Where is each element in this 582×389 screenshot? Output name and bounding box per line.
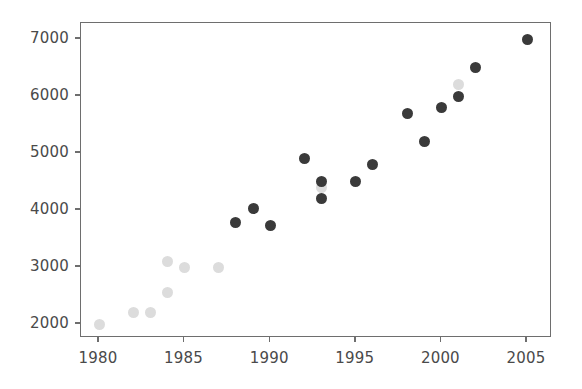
plot-area bbox=[80, 22, 551, 337]
x-axis-tick-label: 2005 bbox=[491, 349, 561, 367]
scatter-chart-figure: 1980198519901995200020052000300040005000… bbox=[0, 0, 582, 389]
data-point bbox=[179, 262, 190, 273]
data-point bbox=[419, 136, 430, 147]
x-axis-tick-label: 1995 bbox=[320, 349, 390, 367]
data-point bbox=[128, 307, 139, 318]
data-point bbox=[230, 217, 241, 228]
x-axis-tick bbox=[183, 337, 184, 342]
y-axis-tick-label: 3000 bbox=[9, 257, 69, 275]
data-point bbox=[316, 193, 327, 204]
y-axis-tick-label: 7000 bbox=[9, 29, 69, 47]
data-point bbox=[94, 319, 105, 330]
data-point bbox=[350, 176, 361, 187]
data-point bbox=[248, 203, 259, 214]
y-axis-tick bbox=[75, 208, 80, 209]
data-point bbox=[299, 153, 310, 164]
data-point bbox=[436, 102, 447, 113]
data-point bbox=[402, 108, 413, 119]
data-point bbox=[162, 256, 173, 267]
data-point bbox=[265, 220, 276, 231]
x-axis-tick bbox=[269, 337, 270, 342]
data-point bbox=[145, 307, 156, 318]
y-axis-tick bbox=[75, 151, 80, 152]
data-point bbox=[162, 287, 173, 298]
y-axis-tick bbox=[75, 94, 80, 95]
x-axis-tick-label: 1985 bbox=[149, 349, 219, 367]
y-axis-tick bbox=[75, 37, 80, 38]
x-axis-tick-label: 1990 bbox=[234, 349, 304, 367]
data-point bbox=[213, 262, 224, 273]
data-point bbox=[316, 176, 327, 187]
x-axis-tick bbox=[440, 337, 441, 342]
y-axis-tick bbox=[75, 265, 80, 266]
y-axis-tick-label: 4000 bbox=[9, 200, 69, 218]
y-axis-tick-label: 2000 bbox=[9, 314, 69, 332]
x-axis-tick bbox=[354, 337, 355, 342]
data-point bbox=[453, 79, 464, 90]
x-axis-tick-label: 2000 bbox=[405, 349, 475, 367]
data-point bbox=[453, 91, 464, 102]
x-axis-tick bbox=[525, 337, 526, 342]
data-point bbox=[367, 159, 378, 170]
x-axis-tick bbox=[97, 337, 98, 342]
y-axis-tick-label: 6000 bbox=[9, 86, 69, 104]
y-axis-tick-label: 5000 bbox=[9, 143, 69, 161]
y-axis-tick bbox=[75, 322, 80, 323]
x-axis-tick-label: 1980 bbox=[63, 349, 133, 367]
data-point bbox=[470, 62, 481, 73]
data-point bbox=[522, 34, 533, 45]
